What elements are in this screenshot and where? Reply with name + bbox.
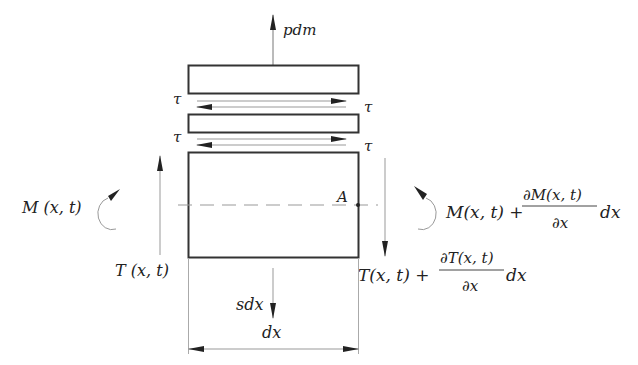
tau-top-right: τ [364,98,373,116]
shear-pair-top [197,101,346,107]
svg-text:dx: dx [600,202,621,222]
right-moment-arc [414,186,436,230]
svg-text:∂x: ∂x [552,214,569,232]
svg-text:∂T(x, t): ∂T(x, t) [440,249,494,267]
tau-mid-left: τ [173,128,182,146]
svg-text:M(x, t) +: M(x, t) + [445,202,524,222]
point-a-marker [356,203,360,207]
distributed-load-label: sdx [236,295,263,314]
point-a-label: A [335,188,348,206]
svg-text:∂x: ∂x [462,277,479,295]
tau-top-left: τ [173,90,182,108]
svg-text:T(x, t) +: T(x, t) + [358,265,429,285]
right-moment-expression: M(x, t) + ∂M(x, t) ∂x dx [445,186,621,232]
right-shear-expression: T(x, t) + ∂T(x, t) ∂x dx [358,249,527,295]
left-shear-label: T (x, t) [115,261,169,280]
tau-mid-right: τ [364,137,373,155]
middle-layer [189,115,359,133]
beam-element-diagram: pdm τ τ τ τ A T (x, t) [0,0,638,365]
dimension-dx-label: dx [262,323,281,342]
top-layer [189,66,359,94]
shear-pair-middle [197,139,346,145]
svg-text:∂M(x, t): ∂M(x, t) [523,186,582,204]
left-moment-arc [98,189,120,230]
svg-text:dx: dx [506,265,527,285]
top-load-label: pdm [283,21,316,39]
diagram-canvas: pdm τ τ τ τ A T (x, t) [0,0,638,365]
left-moment-label: M (x, t) [21,198,82,217]
